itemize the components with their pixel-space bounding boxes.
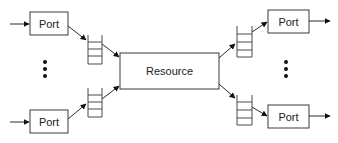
queue-to-port-arrow-bottom: [252, 107, 267, 116]
output-port-bottom-label: Port: [278, 111, 298, 123]
resource-label: Resource: [146, 65, 193, 77]
resource: Resource: [120, 53, 219, 89]
queue-to-resource-arrow-bottom: [102, 86, 119, 99]
output-port-top: Port: [268, 10, 330, 33]
output-port-top-label: Port: [278, 16, 298, 28]
output-queue-bottom: [237, 95, 267, 125]
input-ellipsis: [43, 60, 47, 78]
queue-to-resource-arrow-top: [102, 44, 119, 57]
port-resource-diagram: Port Port Resource: [0, 0, 338, 143]
output-queue-top: [237, 22, 267, 57]
input-port-bottom: Port: [10, 104, 86, 133]
input-port-top-label: Port: [39, 18, 59, 30]
output-ellipsis: [284, 60, 288, 78]
input-port-top: Port: [10, 12, 86, 40]
input-queue-top: [88, 35, 119, 64]
input-queue-bottom: [88, 86, 119, 117]
resource-to-queue-arrow-top: [219, 44, 235, 58]
input-port-bottom-label: Port: [39, 116, 59, 128]
port-to-queue-arrow-top: [68, 26, 86, 40]
output-port-bottom: Port: [268, 105, 330, 128]
queue-to-port-arrow-top: [252, 22, 267, 32]
resource-to-queue-arrow-bottom: [219, 84, 235, 98]
port-to-queue-arrow-bottom: [68, 104, 86, 119]
